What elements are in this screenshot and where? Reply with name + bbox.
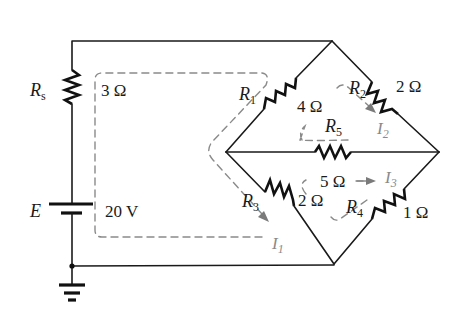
battery-icon: [49, 204, 93, 213]
r1-value: 4 Ω: [297, 97, 322, 116]
ground-node-dot: [69, 263, 74, 268]
bridge-circuit-diagram: Rs 3 Ω E 20 V R1 4 Ω R2 2 Ω R5 5 Ω R3 2 …: [0, 0, 466, 323]
resistor-r5-icon: [315, 146, 351, 158]
resistor-r1-icon: [264, 78, 296, 109]
rs-value: 3 Ω: [101, 81, 126, 100]
r2-label: R2: [348, 78, 366, 101]
r3-branch-wire: [226, 152, 265, 192]
r3-value: 2 Ω: [298, 191, 323, 210]
i1-label: I1: [271, 234, 284, 256]
r5-label: R5: [324, 116, 342, 139]
r2-value: 2 Ω: [396, 77, 421, 96]
r3-label: R3: [241, 191, 259, 214]
rs-label: Rs: [29, 80, 46, 103]
r1-branch-wire: [296, 41, 332, 78]
bridge-network: [226, 41, 439, 264]
r4-label: R4: [345, 197, 363, 220]
resistor-rs-icon: [65, 70, 79, 104]
top-wire: [72, 41, 332, 70]
r5-value: 5 Ω: [320, 172, 345, 191]
arrow-i3-icon: [366, 177, 376, 185]
ground-icon: [59, 285, 85, 300]
resistor-r4-icon: [372, 189, 405, 219]
arrow-i1-icon: [258, 211, 269, 222]
r2-branch-wire: [332, 41, 372, 82]
source-value: 20 V: [105, 202, 139, 221]
r4-value: 1 Ω: [403, 203, 428, 222]
left-branch: [49, 41, 334, 300]
r1-label: R1: [238, 84, 256, 107]
i3-label: I3: [384, 168, 397, 190]
bottom-wire: [72, 265, 334, 266]
resistor-r3-icon: [265, 180, 294, 206]
source-label: E: [29, 201, 41, 221]
i2-label: I2: [376, 119, 389, 141]
r4-branch-wire: [404, 152, 439, 189]
